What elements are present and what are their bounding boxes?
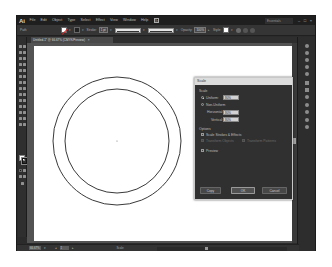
draw-normal-icon[interactable]: [19, 175, 22, 178]
graphic-styles-panel-icon[interactable]: [305, 110, 309, 114]
chevron-down-icon[interactable]: ▾: [82, 28, 85, 33]
stroke-panel-icon[interactable]: [305, 81, 309, 85]
blend-tool-icon[interactable]: [23, 105, 26, 108]
chevron-down-icon[interactable]: ▸: [208, 28, 211, 33]
stroke-weight-field[interactable]: 1 pt: [99, 27, 108, 33]
scale-strokes-label: Scale Strokes & Effects: [206, 133, 241, 137]
pen-tool-icon[interactable]: [19, 57, 22, 60]
color-guide-panel-icon[interactable]: [305, 51, 309, 55]
eyedropper-tool-icon[interactable]: [19, 105, 22, 108]
artboard-next-icon[interactable]: ▸: [72, 246, 74, 250]
shape-builder-tool-icon[interactable]: [19, 93, 22, 96]
transform-objects-checkbox[interactable]: [201, 139, 204, 142]
chevron-down-icon[interactable]: ▾: [231, 28, 234, 33]
scale-strokes-checkbox[interactable]: [201, 133, 204, 136]
slice-tool-icon[interactable]: [23, 117, 26, 120]
maximize-button[interactable]: □: [303, 18, 307, 23]
close-button[interactable]: ×: [309, 18, 313, 23]
vertical-scroll-thumb[interactable]: [293, 138, 296, 144]
minimize-button[interactable]: –: [297, 18, 301, 23]
screen-mode-icon[interactable]: [21, 182, 24, 185]
fill-color-swatch[interactable]: [61, 27, 67, 33]
cancel-button[interactable]: Cancel: [262, 187, 287, 194]
close-icon[interactable]: ×: [88, 38, 90, 42]
mesh-tool-icon[interactable]: [19, 99, 22, 102]
menu-type[interactable]: Type: [65, 16, 78, 25]
non-uniform-radio[interactable]: [201, 103, 204, 106]
chevron-down-icon[interactable]: ▾: [44, 246, 46, 250]
hand-tool-icon[interactable]: [19, 123, 22, 126]
vertical-scale-input[interactable]: 80%: [223, 117, 239, 122]
gradient-mode-icon[interactable]: [23, 169, 26, 172]
vertical-label: Vertical:: [211, 118, 223, 122]
chevron-down-icon[interactable]: ▾: [143, 28, 146, 33]
scale-section-heading: Scale: [199, 89, 207, 93]
uniform-scale-input[interactable]: 80%: [223, 95, 239, 100]
chevron-down-icon[interactable]: ▾: [176, 28, 179, 33]
rectangle-tool-icon[interactable]: [23, 63, 26, 66]
artboard-prev-icon[interactable]: ◂: [55, 246, 57, 250]
artboard-tool-icon[interactable]: [19, 117, 22, 120]
recolor-artwork-icon[interactable]: [236, 28, 241, 33]
symbols-panel-icon[interactable]: [305, 72, 309, 76]
perspective-grid-tool-icon[interactable]: [23, 93, 26, 96]
draw-behind-icon[interactable]: [23, 175, 26, 178]
transparency-panel-icon[interactable]: [305, 95, 309, 99]
bridge-icon[interactable]: Br: [154, 18, 159, 23]
horizontal-scale-input[interactable]: 80%: [223, 110, 239, 115]
selection-tool-icon[interactable]: [19, 45, 22, 48]
line-tool-icon[interactable]: [19, 63, 22, 66]
appearance-panel-icon[interactable]: [305, 103, 309, 107]
menu-effect[interactable]: Effect: [93, 16, 107, 25]
chevron-down-icon[interactable]: ▾: [69, 28, 72, 33]
menu-window[interactable]: Window: [120, 16, 138, 25]
pencil-tool-icon[interactable]: [23, 69, 26, 72]
lasso-tool-icon[interactable]: [23, 51, 26, 54]
preview-checkbox[interactable]: [201, 149, 204, 152]
column-graph-tool-icon[interactable]: [23, 111, 26, 114]
menu-select[interactable]: Select: [78, 16, 93, 25]
stroke-color-swatch[interactable]: [74, 27, 80, 33]
brushes-panel-icon[interactable]: [305, 65, 309, 69]
width-tool-icon[interactable]: [19, 87, 22, 90]
horizontal-scrollbar[interactable]: [157, 247, 287, 251]
paintbrush-tool-icon[interactable]: [19, 69, 22, 72]
chevron-down-icon[interactable]: ▾: [110, 28, 113, 33]
variable-width-profile[interactable]: [115, 28, 141, 33]
align-icon[interactable]: [243, 28, 248, 33]
artboards-panel-icon[interactable]: [305, 125, 309, 129]
brush-definition[interactable]: [148, 28, 174, 33]
menu-edit[interactable]: Edit: [38, 16, 49, 25]
horizontal-scroll-thumb[interactable]: [205, 247, 208, 250]
artboard-number-field[interactable]: 1: [60, 246, 69, 251]
free-transform-tool-icon[interactable]: [23, 87, 26, 90]
workspace-switcher[interactable]: Essentials: [265, 18, 293, 24]
gradient-panel-icon[interactable]: [305, 88, 309, 92]
zoom-level-field[interactable]: 66.67%: [29, 246, 41, 251]
symbol-sprayer-tool-icon[interactable]: [19, 111, 22, 114]
uniform-radio[interactable]: [201, 96, 204, 99]
transform-icon[interactable]: [250, 28, 255, 33]
magic-wand-tool-icon[interactable]: [19, 51, 22, 54]
direct-selection-tool-icon[interactable]: [23, 45, 26, 48]
gradient-tool-icon[interactable]: [23, 99, 26, 102]
graphic-style-swatch[interactable]: [223, 27, 229, 33]
eraser-tool-icon[interactable]: [23, 75, 26, 78]
color-mode-icon[interactable]: [19, 169, 22, 172]
ok-button[interactable]: OK: [231, 187, 255, 194]
menu-view[interactable]: View: [107, 16, 120, 25]
zoom-tool-icon[interactable]: [23, 123, 26, 126]
menu-file[interactable]: File: [27, 16, 38, 25]
scale-tool-icon[interactable]: [23, 81, 26, 84]
menu-object[interactable]: Object: [49, 16, 65, 25]
transform-patterns-checkbox[interactable]: [242, 139, 245, 142]
swatches-panel-icon[interactable]: [305, 58, 309, 62]
blob-brush-tool-icon[interactable]: [19, 75, 22, 78]
type-tool-icon[interactable]: [23, 57, 26, 60]
color-panel-icon[interactable]: [305, 44, 309, 48]
rotate-tool-icon[interactable]: [19, 81, 22, 84]
opacity-field[interactable]: 100%: [194, 27, 206, 33]
menu-help[interactable]: Help: [138, 16, 151, 25]
layers-panel-icon[interactable]: [305, 118, 309, 122]
copy-button[interactable]: Copy: [200, 187, 221, 194]
